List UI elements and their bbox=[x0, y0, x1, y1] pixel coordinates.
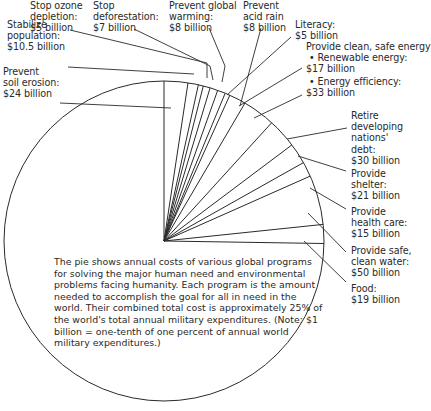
slice-boundary bbox=[164, 241, 324, 244]
slice-label-soil: Prevent soil erosion: $24 billion bbox=[3, 66, 59, 100]
slice-label-energy: Provide clean, safe energy • Renewable e… bbox=[306, 41, 431, 75]
slice-label-ozone: Stop ozone depletion: $5 billion bbox=[30, 0, 83, 34]
slice-boundary bbox=[164, 90, 218, 241]
slice-boundary bbox=[164, 224, 323, 241]
slice-boundary bbox=[164, 123, 272, 241]
leader-line bbox=[298, 156, 346, 171]
leader-line bbox=[68, 67, 194, 74]
slice-label-acidrain: Prevent acid rain $8 billion bbox=[243, 0, 286, 34]
leader-line bbox=[308, 213, 346, 252]
slice-label-literacy: Literacy: $5 billion bbox=[295, 19, 338, 41]
leader-lines bbox=[60, 28, 347, 282]
slice-boundary bbox=[164, 93, 225, 241]
slice-label-warming: Prevent global warming: $8 billion bbox=[169, 0, 237, 34]
slice-label-water: Provide safe, clean water: $50 billion bbox=[351, 245, 412, 279]
slice-boundary bbox=[164, 163, 304, 241]
slice-label-health: Provide health care: $15 billion bbox=[351, 206, 407, 240]
leader-line bbox=[227, 37, 291, 95]
leader-line bbox=[310, 188, 346, 209]
slice-boundary bbox=[164, 95, 230, 241]
slice-label-shelter: Provide shelter: $21 billion bbox=[351, 168, 400, 202]
caption-text: The pie shows annual costs of various gl… bbox=[54, 256, 324, 349]
chart-caption: The pie shows annual costs of various gl… bbox=[54, 256, 324, 349]
leader-line bbox=[287, 128, 347, 139]
slice-label-debt: Retire developing nations' debt: $30 bil… bbox=[351, 110, 403, 166]
slice-label-food: Food: $19 billion bbox=[351, 283, 400, 305]
pie-slices bbox=[4, 81, 324, 401]
leader-line bbox=[254, 95, 302, 118]
slice-label-deforestation: Stop deforestation: $7 billion bbox=[93, 0, 159, 34]
slice-label-efficiency: • Energy efficiency: $33 billion bbox=[306, 76, 401, 98]
slice-boundary bbox=[164, 88, 210, 241]
slice-boundary bbox=[164, 103, 245, 241]
